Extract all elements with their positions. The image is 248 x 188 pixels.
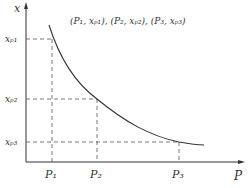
y-axis-arrow-icon bbox=[24, 2, 28, 9]
y-axis-label: x bbox=[14, 2, 21, 15]
label-xp2: xₚ₂ bbox=[5, 94, 18, 104]
label-p2: P₂ bbox=[89, 168, 102, 181]
label-xp1: xₚ₁ bbox=[5, 34, 17, 44]
label-p3: P₃ bbox=[171, 168, 184, 181]
points-annotation: (P₁, xₚ₁), (P₂, xₚ₂), (P₃, xₚ₃) bbox=[70, 16, 186, 26]
curve bbox=[49, 25, 204, 145]
x-axis-arrow-icon bbox=[238, 160, 245, 164]
x-axis-label: P bbox=[233, 169, 243, 183]
label-p1: P₁ bbox=[44, 168, 57, 181]
label-xp3: xₚ₃ bbox=[5, 137, 18, 147]
diagram-canvas: x P xₚ₁ xₚ₂ xₚ₃ P₁ P₂ P₃ (P₁, xₚ₁), (P₂,… bbox=[0, 0, 248, 188]
